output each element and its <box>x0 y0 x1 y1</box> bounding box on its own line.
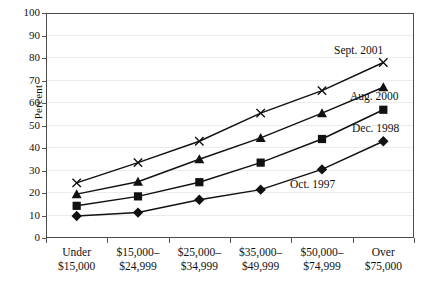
x-tick-label: $35,000–$49,999 <box>230 246 291 273</box>
x-tick-mark <box>169 238 170 243</box>
x-tick-label-line: $15,000 <box>46 260 107 274</box>
x-tick-mark <box>353 238 354 243</box>
x-tick-label: Under$15,000 <box>46 246 107 273</box>
gridline <box>47 147 413 148</box>
x-tick-mark <box>291 238 292 243</box>
x-tick-label: $50,000–$74,999 <box>291 246 352 273</box>
y-tick-mark <box>42 58 46 59</box>
series-label-aug-2000: Aug. 2000 <box>350 90 399 102</box>
y-tick-label: 100 <box>0 7 40 18</box>
x-tick-mark <box>230 238 231 243</box>
gridline <box>47 102 413 103</box>
x-tick-label-line: $74,999 <box>291 260 352 274</box>
x-tick-label-line: $15,000– <box>107 246 168 260</box>
y-tick-label: 20 <box>0 187 40 198</box>
gridline <box>47 215 413 216</box>
x-tick-mark <box>414 238 415 243</box>
y-tick-mark <box>42 36 46 37</box>
y-tick-label: 30 <box>0 165 40 176</box>
x-tick-mark <box>46 238 47 243</box>
x-tick-label-line: $34,999 <box>169 260 230 274</box>
y-tick-label: 90 <box>0 30 40 41</box>
x-tick-label: $15,000–$24,999 <box>107 246 168 273</box>
y-tick-mark <box>42 81 46 82</box>
gridline <box>47 170 413 171</box>
gridline <box>47 35 413 36</box>
y-tick-mark <box>42 13 46 14</box>
chart-container: Percent 0102030405060708090100 Under$15,… <box>0 0 432 288</box>
series-label-sept-2001: Sept. 2001 <box>334 44 383 56</box>
y-tick-label: 70 <box>0 75 40 86</box>
y-tick-mark <box>42 148 46 149</box>
y-tick-label: 80 <box>0 52 40 63</box>
x-tick-label: $25,000–$34,999 <box>169 246 230 273</box>
y-tick-mark <box>42 126 46 127</box>
y-tick-label: 10 <box>0 210 40 221</box>
gridline <box>47 80 413 81</box>
x-tick-label-line: Over $75,000 <box>353 246 414 273</box>
series-label-oct-1997: Oct. 1997 <box>290 178 335 190</box>
x-tick-label-line: $24,999 <box>107 260 168 274</box>
x-tick-label-line: Under <box>46 246 107 260</box>
x-tick-mark <box>107 238 108 243</box>
x-tick-label: Over $75,000 <box>353 246 414 273</box>
y-tick-mark <box>42 216 46 217</box>
y-tick-mark <box>42 171 46 172</box>
series-label-dec-1998: Dec. 1998 <box>352 122 399 134</box>
gridline <box>47 57 413 58</box>
x-tick-label-line: $35,000– <box>230 246 291 260</box>
x-tick-label-line: $50,000– <box>291 246 352 260</box>
y-tick-label: 50 <box>0 120 40 131</box>
y-tick-mark <box>42 193 46 194</box>
y-tick-label: 60 <box>0 97 40 108</box>
y-tick-mark <box>42 103 46 104</box>
y-tick-label: 40 <box>0 142 40 153</box>
y-tick-label: 0 <box>0 232 40 243</box>
gridline <box>47 192 413 193</box>
x-tick-label-line: $49,999 <box>230 260 291 274</box>
x-tick-label-line: $25,000– <box>169 246 230 260</box>
